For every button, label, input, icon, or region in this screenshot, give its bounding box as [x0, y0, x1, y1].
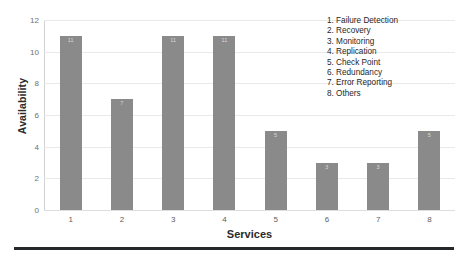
y-axis-tick-label: 2	[35, 174, 39, 183]
y-axis-tick-label: 12	[30, 16, 39, 25]
bar-slot: 111	[45, 20, 96, 210]
legend-item: 4. Replication	[327, 47, 398, 57]
x-axis-tick-label: 2	[96, 215, 147, 224]
legend-item: 8. Others	[327, 89, 398, 99]
bar-value-label: 11	[213, 38, 235, 44]
y-axis-tick-label: 10	[30, 47, 39, 56]
bar-slot: 58	[404, 20, 455, 210]
bar[interactable]: 3	[367, 163, 389, 211]
x-axis-tick-label: 5	[250, 215, 301, 224]
x-axis-tick-label: 1	[45, 215, 96, 224]
bar[interactable]: 3	[316, 163, 338, 211]
bar[interactable]: 5	[418, 131, 440, 210]
legend-item: 2. Recovery	[327, 26, 398, 36]
legend-item: 3. Monitoring	[327, 37, 398, 47]
y-axis-tick-label: 8	[35, 79, 39, 88]
legend-item: 5. Check Point	[327, 58, 398, 68]
bar-value-label: 5	[418, 133, 440, 139]
bar[interactable]: 11	[60, 36, 82, 210]
bottom-divider	[14, 247, 454, 250]
y-axis-tick-label: 6	[35, 111, 39, 120]
x-axis-tick-label: 8	[404, 215, 455, 224]
gridline	[44, 210, 455, 211]
bar[interactable]: 7	[111, 99, 133, 210]
bar-value-label: 11	[60, 38, 82, 44]
x-axis-tick-label: 7	[353, 215, 404, 224]
bar-value-label: 5	[265, 133, 287, 139]
bar-slot: 114	[199, 20, 250, 210]
legend-item: 7. Error Reporting	[327, 78, 398, 88]
bar-slot: 113	[148, 20, 199, 210]
bar[interactable]: 11	[213, 36, 235, 210]
x-axis-title: Services	[44, 228, 455, 240]
bar-value-label: 11	[162, 38, 184, 44]
y-axis-title: Availability	[16, 46, 28, 166]
x-axis-tick-label: 4	[199, 215, 250, 224]
bar-slot: 72	[96, 20, 147, 210]
bar-slot: 55	[250, 20, 301, 210]
bar-value-label: 3	[367, 165, 389, 171]
y-axis-tick-label: 4	[35, 142, 39, 151]
x-axis-tick-label: 3	[148, 215, 199, 224]
y-axis-tick-label: 0	[35, 206, 39, 215]
bar[interactable]: 5	[265, 131, 287, 210]
bar-value-label: 3	[316, 165, 338, 171]
legend-item: 1. Failure Detection	[327, 16, 398, 26]
bar-value-label: 7	[111, 101, 133, 107]
bar[interactable]: 11	[162, 36, 184, 210]
bar-chart-figure: Availability 024681012 11172113114553637…	[0, 0, 463, 258]
legend: 1. Failure Detection2. Recovery3. Monito…	[327, 16, 398, 99]
legend-item: 6. Redundancy	[327, 68, 398, 78]
x-axis-tick-label: 6	[301, 215, 352, 224]
